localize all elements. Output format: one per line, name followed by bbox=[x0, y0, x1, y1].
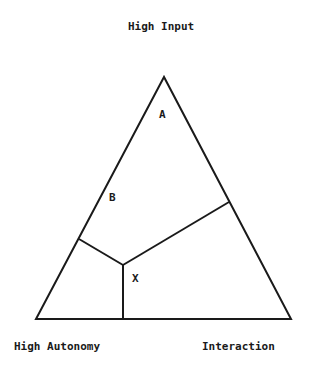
vertex-label-interaction: Interaction bbox=[202, 340, 275, 353]
ternary-triangle-diagram bbox=[0, 0, 314, 370]
region-label-b: B bbox=[109, 191, 116, 204]
divider-right bbox=[123, 202, 229, 265]
vertex-label-high-input: High Input bbox=[128, 20, 194, 33]
vertex-label-high-autonomy: High Autonomy bbox=[14, 340, 100, 353]
divider-left bbox=[79, 239, 123, 265]
region-label-a: A bbox=[159, 108, 166, 121]
region-label-x: X bbox=[132, 272, 139, 285]
